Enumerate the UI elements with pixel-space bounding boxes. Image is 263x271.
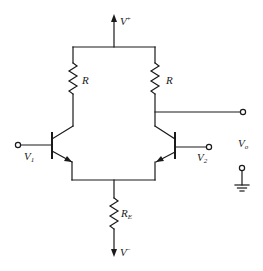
vo-label: Vo xyxy=(238,138,248,151)
ground-terminal-icon[interactable] xyxy=(239,165,244,170)
ground-icon xyxy=(235,171,249,191)
vminus-label: V− xyxy=(120,247,131,258)
resistor-re-icon xyxy=(110,180,118,250)
resistor-r-left-icon xyxy=(69,47,77,126)
circuit-diagram: V+ R R V1 V2 Vo RE V− xyxy=(0,0,263,271)
vplus-arrow-icon xyxy=(111,14,117,47)
r-left-label: R xyxy=(82,75,89,86)
v2-label: V2 xyxy=(197,152,207,165)
r-right-label: R xyxy=(166,75,173,86)
vplus-label: V+ xyxy=(120,16,131,27)
schematic-drawing xyxy=(0,0,263,271)
vminus-arrow-icon xyxy=(111,249,117,257)
v2-terminal-icon[interactable] xyxy=(206,144,211,149)
re-label: RE xyxy=(121,208,132,221)
vo-terminal-icon[interactable] xyxy=(240,109,245,114)
v1-label: V1 xyxy=(24,151,34,164)
v1-terminal-icon[interactable] xyxy=(15,142,20,147)
resistor-r-right-icon xyxy=(151,47,159,126)
